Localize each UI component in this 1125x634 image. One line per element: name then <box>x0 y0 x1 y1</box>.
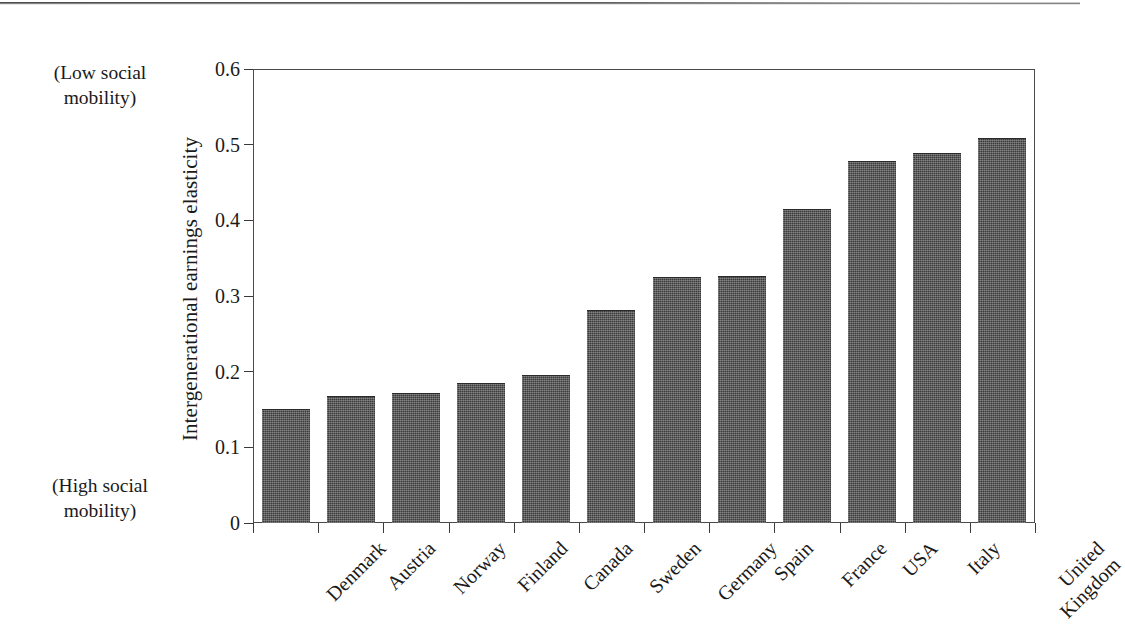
x-axis-label-sweden: Sweden <box>644 537 705 598</box>
x-axis-label-line: Norway <box>449 537 511 599</box>
x-axis-tick <box>905 523 906 533</box>
x-axis-label-line: Italy <box>962 537 1004 579</box>
x-axis-tick <box>1035 523 1036 533</box>
x-axis-tick <box>514 523 515 533</box>
x-axis-label-line: Austria <box>382 537 440 595</box>
x-axis-label-france: France <box>837 537 892 592</box>
x-axis-tick <box>709 523 710 533</box>
x-axis-tick <box>774 523 775 533</box>
x-axis-label-denmark: Denmark <box>322 537 391 606</box>
x-axis-tick <box>840 523 841 533</box>
x-axis-label-line: Finland <box>513 537 572 596</box>
x-axis-label-united-kingdom: UnitedKingdom <box>1039 537 1125 623</box>
x-axis-label-line: Denmark <box>322 537 391 606</box>
x-axis-label-usa: USA <box>898 537 943 582</box>
x-axis-tick <box>644 523 645 533</box>
x-axis-tick <box>383 523 384 533</box>
x-axis-tick <box>970 523 971 533</box>
x-axis-label-italy: Italy <box>962 537 1004 579</box>
x-axis-label-norway: Norway <box>449 537 511 599</box>
x-axis-tick <box>579 523 580 533</box>
x-axis-label-line: Spain <box>769 537 817 585</box>
x-axis-label-line: France <box>837 537 892 592</box>
x-axis-label-canada: Canada <box>578 537 637 596</box>
x-axis-label-spain: Spain <box>769 537 817 585</box>
x-axis-label-finland: Finland <box>513 537 572 596</box>
x-axis-label-line: Sweden <box>644 537 705 598</box>
x-axis-label-line: USA <box>898 537 943 582</box>
x-axis-tick <box>318 523 319 533</box>
x-axis-label-austria: Austria <box>382 537 440 595</box>
x-axis-label-line: Canada <box>578 537 637 596</box>
x-axis-tick <box>253 523 254 533</box>
x-axis-tick <box>449 523 450 533</box>
